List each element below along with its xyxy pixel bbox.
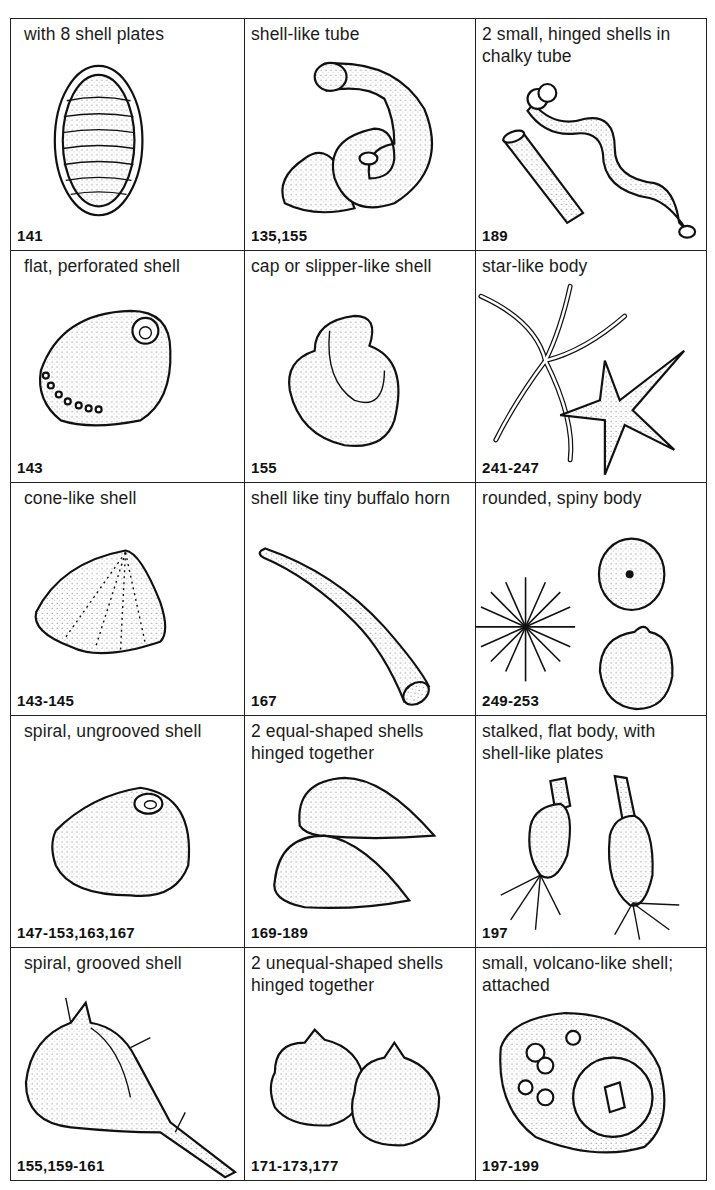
grid-cell-abalone[interactable]: flat, perforated shell 143 [11,251,245,483]
page-reference: 249-253 [482,692,539,709]
grid-cell-starfish[interactable]: star-like body 241-247 [476,251,706,483]
page-reference: 147-153,163,167 [17,924,135,941]
page-reference: 135,155 [251,227,307,244]
grid-cell-tusk-shell[interactable]: shell like tiny buffalo horn 167 [245,483,476,715]
chiton-icon [11,19,244,250]
grid-cell-chiton[interactable]: with 8 shell plates 141 [11,19,245,251]
cell-description: shell-like tube [251,23,471,45]
sea-urchin-icon [476,483,706,714]
cell-description: cap or slipper-like shell [251,255,471,277]
grid-cell-mussel[interactable]: 2 equal-shaped shells hinged together 16… [245,716,476,948]
smooth-snail-icon [11,716,244,947]
page-reference: 167 [251,692,277,709]
grid-cell-goose-barnacle[interactable]: stalked, flat body, with shell-like plat… [476,716,706,948]
page-title [0,0,715,4]
page-reference: 143 [17,459,43,476]
limpet-icon [11,483,244,714]
grid-cell-slipper-shell[interactable]: cap or slipper-like shell 155 [245,251,476,483]
cell-description: with 8 shell plates [24,23,240,45]
cell-description: shell like tiny buffalo horn [251,487,471,509]
page-reference: 155 [251,459,277,476]
cell-description: rounded, spiny body [482,487,702,509]
cell-description: flat, perforated shell [24,255,240,277]
page-reference: 189 [482,227,508,244]
page-reference: 197 [482,924,508,941]
grid-cell-shipworm[interactable]: 2 small, hinged shells in chalky tube 18… [476,19,706,251]
cell-description: 2 unequal-shaped shells hinged together [251,952,471,996]
page-reference: 143-145 [17,692,74,709]
cell-description: cone-like shell [24,487,240,509]
cell-description: spiral, grooved shell [24,952,240,974]
abalone-icon [11,251,244,482]
grid-cell-acorn-barnacle[interactable]: small, volcano-like shell; attached 197-… [476,948,706,1180]
identification-grid: with 8 shell plates 141 shell-like tube … [10,18,707,1181]
cell-description: star-like body [482,255,702,277]
slipper-shell-icon [245,251,475,482]
murex-icon [11,948,244,1180]
cell-description: spiral, ungrooved shell [24,720,240,742]
cell-description: small, volcano-like shell; attached [482,952,702,996]
grid-cell-murex[interactable]: spiral, grooved shell 155,159-161 [11,948,245,1180]
page-reference: 241-247 [482,459,539,476]
grid-cell-oyster[interactable]: 2 unequal-shaped shells hinged together … [245,948,476,1180]
starfish-icon [476,251,706,482]
grid-cell-sea-urchin[interactable]: rounded, spiny body 249-253 [476,483,706,715]
page-reference: 197-199 [482,1157,539,1174]
cell-description: 2 equal-shaped shells hinged together [251,720,471,764]
grid-cell-smooth-snail[interactable]: spiral, ungrooved shell 147-153,163,167 [11,716,245,948]
grid-cell-limpet[interactable]: cone-like shell 143-145 [11,483,245,715]
page-reference: 171-173,177 [251,1157,339,1174]
tusk-shell-icon [245,483,475,714]
coiled-tube-worm-icon [245,19,475,250]
cell-description: 2 small, hinged shells in chalky tube [482,23,702,67]
page-reference: 155,159-161 [17,1157,105,1174]
page-reference: 141 [17,227,43,244]
page-reference: 169-189 [251,924,308,941]
grid-cell-tube-worm[interactable]: shell-like tube 135,155 [245,19,476,251]
cell-description: stalked, flat body, with shell-like plat… [482,720,702,764]
